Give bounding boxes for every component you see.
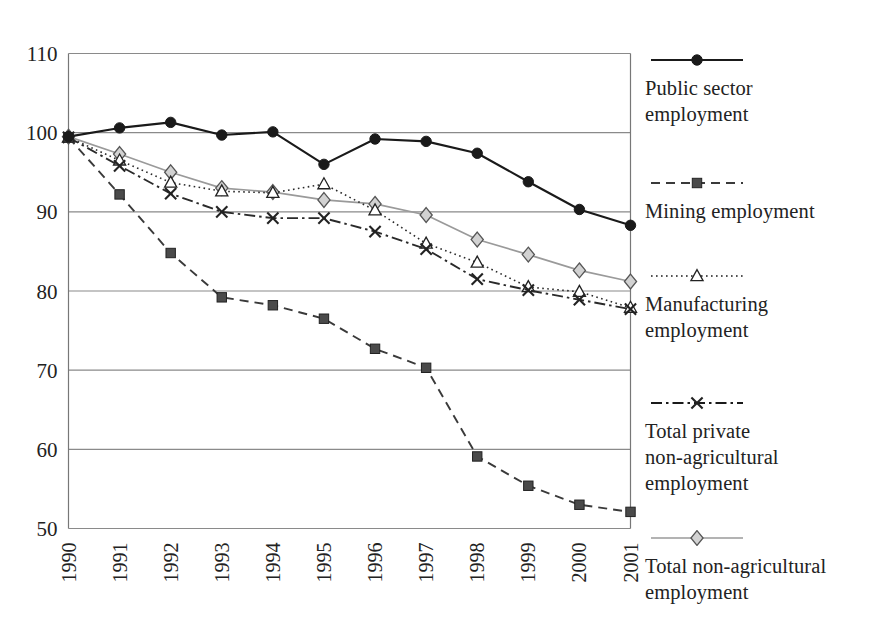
- y-tick-label-110: 110: [27, 42, 58, 66]
- legend-item-label: Manufacturingemployment: [645, 291, 880, 343]
- data-point-marker: [370, 134, 380, 144]
- data-point-marker: [114, 123, 124, 133]
- x-tick-label-1993: 1993: [211, 543, 233, 583]
- data-point-marker: [319, 159, 329, 169]
- data-point-marker: [471, 232, 483, 247]
- data-point-marker: [420, 237, 432, 248]
- data-point-marker: [524, 481, 533, 490]
- data-point-marker: [421, 363, 430, 372]
- data-point-marker: [522, 247, 534, 262]
- legend-item-4[interactable]: Total privatenon-agriculturalemployment: [645, 395, 880, 496]
- legend-item-2[interactable]: Mining employment: [645, 175, 880, 224]
- series-line: [69, 137, 631, 282]
- legend-item-label: Mining employment: [645, 198, 880, 224]
- data-point-marker: [166, 248, 175, 257]
- data-point-marker: [318, 213, 329, 224]
- y-axis-tick-labels: 1101009080706050: [26, 42, 58, 541]
- data-point-marker: [692, 178, 701, 187]
- y-tick-label-100: 100: [26, 121, 58, 145]
- series-line: [69, 137, 631, 307]
- data-point-marker: [318, 193, 330, 208]
- x-tick-label-1996: 1996: [364, 543, 386, 583]
- data-point-marker: [369, 226, 380, 237]
- data-point-marker: [63, 131, 73, 141]
- x-tick-label-1990: 1990: [58, 543, 80, 583]
- data-point-marker: [624, 274, 636, 289]
- data-point-marker: [626, 507, 635, 516]
- legend-line-sample: [649, 52, 745, 68]
- legend-line-sample: [649, 530, 745, 546]
- legend-item-label: Public sectoremployment: [645, 75, 880, 127]
- legend-line-sample: [649, 175, 745, 191]
- legend-line-sample: [649, 268, 745, 284]
- series-line: [69, 137, 631, 511]
- data-point-marker: [421, 136, 431, 146]
- legend-item-label: Total non-agriculturalemployment: [645, 553, 880, 605]
- data-point-marker: [420, 208, 432, 223]
- series-line: [69, 137, 631, 309]
- data-point-marker: [165, 176, 177, 187]
- data-point-marker: [268, 127, 278, 137]
- legend-item-1[interactable]: Public sectoremployment: [645, 52, 880, 127]
- data-point-marker: [625, 220, 635, 230]
- data-point-marker: [692, 55, 702, 65]
- data-point-marker: [217, 130, 227, 140]
- data-point-marker: [319, 314, 328, 323]
- data-point-marker: [574, 204, 584, 214]
- data-point-marker: [165, 188, 176, 199]
- legend-item-3[interactable]: Manufacturingemployment: [645, 268, 880, 343]
- data-point-marker: [575, 500, 584, 509]
- legend-item-label: Total privatenon-agriculturalemployment: [645, 418, 880, 496]
- series-total-private-non-agricultural-employment: [63, 132, 636, 315]
- x-tick-label-1998: 1998: [466, 543, 488, 583]
- data-point-marker: [318, 178, 330, 189]
- x-axis-tick-labels: 1990199119921993199419951996199719981999…: [58, 543, 642, 583]
- x-tick-label-1994: 1994: [262, 543, 284, 583]
- y-tick-label-50: 50: [37, 517, 58, 541]
- data-point-marker: [523, 177, 533, 187]
- series-public-sector-employment: [63, 117, 635, 230]
- x-tick-label-1992: 1992: [160, 543, 182, 583]
- data-point-marker: [268, 301, 277, 310]
- y-tick-label-90: 90: [37, 200, 58, 224]
- y-tick-label-70: 70: [37, 359, 58, 383]
- series-manufacturing-employment: [62, 131, 636, 312]
- x-tick-label-1999: 1999: [517, 543, 539, 583]
- data-point-marker: [691, 531, 703, 546]
- x-tick-label-2001: 2001: [620, 543, 642, 583]
- data-point-marker: [573, 263, 585, 278]
- x-tick-label-1991: 1991: [109, 543, 131, 583]
- data-point-marker: [691, 270, 703, 281]
- series-mining-employment: [64, 133, 635, 517]
- data-series-group: [62, 117, 636, 516]
- x-tick-label-1997: 1997: [415, 543, 437, 583]
- data-point-marker: [473, 452, 482, 461]
- data-point-marker: [472, 274, 483, 285]
- data-point-marker: [472, 148, 482, 158]
- x-tick-label-1995: 1995: [313, 543, 335, 583]
- data-point-marker: [370, 344, 379, 353]
- chart-legend: Public sectoremploymentMining employment…: [645, 40, 880, 620]
- y-tick-label-80: 80: [37, 280, 58, 304]
- legend-line-sample: [649, 395, 745, 411]
- series-total-non-agricultural-employment: [62, 129, 636, 289]
- data-point-marker: [165, 117, 175, 127]
- data-point-marker: [115, 190, 124, 199]
- employment-index-line-chart: 1101009080706050 19901991199219931994199…: [0, 0, 885, 642]
- series-line: [69, 122, 631, 225]
- x-tick-label-2000: 2000: [568, 543, 590, 583]
- data-point-marker: [217, 293, 226, 302]
- y-tick-label-60: 60: [37, 438, 58, 462]
- legend-item-5[interactable]: Total non-agriculturalemployment: [645, 530, 880, 605]
